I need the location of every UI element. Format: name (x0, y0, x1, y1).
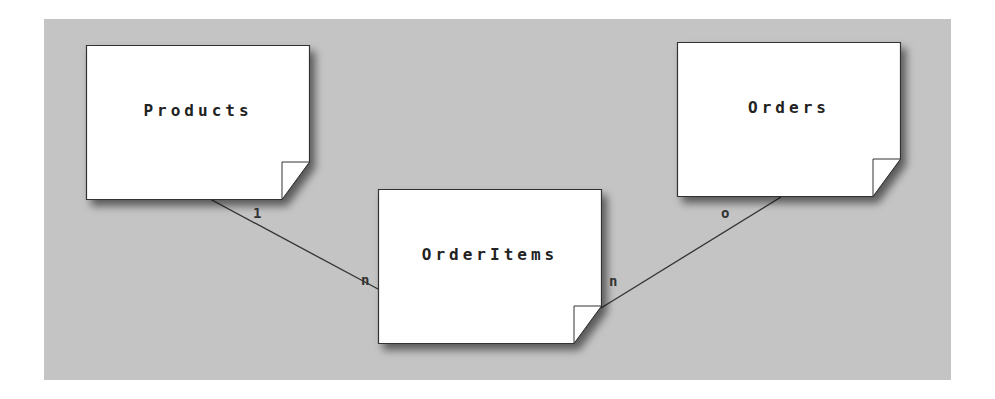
entity-label: Products (86, 101, 310, 120)
entity-label: OrderItems (378, 245, 602, 264)
entity-products[interactable]: Products (86, 45, 310, 200)
entity-label: Orders (677, 98, 901, 117)
note-card-shape (677, 42, 901, 197)
cardinality-orderitems-orders-side: n (609, 273, 617, 289)
cardinality-products-side: 1 (253, 205, 261, 221)
edge-products-orderitems[interactable] (210, 199, 378, 289)
edge-orders-orderitems[interactable] (601, 197, 781, 308)
cardinality-orderitems-products-side: n (361, 272, 369, 288)
note-card-shape (86, 45, 310, 200)
cardinality-orders-side: o (721, 205, 729, 221)
entity-orders[interactable]: Orders (677, 42, 901, 197)
entity-orderitems[interactable]: OrderItems (378, 189, 602, 344)
note-card-shape (378, 189, 602, 344)
